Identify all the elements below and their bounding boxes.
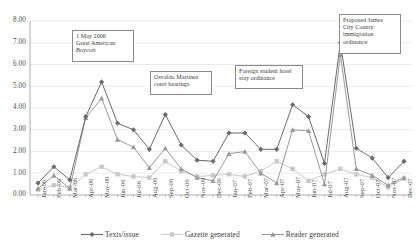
legend-label: Gazette generated [185,230,240,239]
x-axis-tick-label: May-07 [295,177,302,198]
data-point [354,146,359,151]
x-axis-tick-label: Jul-06 [136,181,143,198]
legend-item[interactable]: Reader generated [262,230,339,239]
legend-marker-diamond-icon [81,230,103,239]
y-axis-tick-label: 7.00 [0,39,26,46]
data-point [89,232,94,237]
annotation-line-4: ordinance [343,39,397,46]
x-axis-tick-label: Mar-06 [72,178,79,198]
y-axis-tick-label: 3.00 [0,126,26,133]
y-axis-tick-label: 8.00 [0,17,26,24]
data-point [227,172,231,176]
x-axis-tick-label: Aug-07 [343,177,350,198]
chart-legend: Texts/issueGazette generatedReader gener… [0,230,420,239]
data-point [163,112,168,117]
data-point [354,172,358,176]
legend-marker-square-icon [161,230,183,239]
data-point [290,167,294,171]
annotation-line-1: 1 May 2006 [76,33,130,40]
annotation-osvaldo-martinez: Osvaldo Martinez court hearings [150,71,212,95]
series-reader-generated [35,52,406,191]
data-point [338,167,342,171]
legend-item[interactable]: Gazette generated [161,230,240,239]
data-point [99,79,104,84]
x-axis-tick-label: Sep-06 [168,179,175,198]
data-point [115,137,120,142]
data-point [226,130,231,135]
data-point [170,232,174,236]
annotation-line-3: Boycott [76,47,130,54]
x-axis-tick-label: May-06 [104,177,111,198]
x-axis-tick-label: Apr-07 [279,178,286,198]
x-axis-tick-label: Jan-06 [41,180,48,198]
annotation-line-3: immigration [343,31,397,38]
x-axis-tick-label: Dec-07 [407,178,414,198]
annotation-line-1: Osvaldo Martinez [154,74,208,81]
x-axis-tick-label: Aug-06 [152,177,159,198]
legend-marker-triangle-icon [262,230,284,239]
x-axis-tick-label: Sep-07 [359,179,366,198]
x-axis-tick-label: Jun-07 [311,179,318,198]
annotation-line-2: Great American [76,40,130,47]
annotation-line-2: stay ordinance [239,75,299,82]
x-axis-tick-label: Oct-07 [375,179,382,198]
annotation-line-1: Foreign student hotel [239,68,299,75]
x-axis-tick-label: Nov-07 [391,177,398,198]
annotation-foreign-student-hotel: Foreign student hotel stay ordinance [235,65,303,89]
x-axis-tick-label: Jan-07 [232,180,239,198]
data-point [99,165,103,169]
data-point [115,172,119,176]
x-axis-tick-label: Feb-06 [56,179,63,198]
data-point [163,146,168,151]
data-point [115,121,120,126]
x-axis-tick-label: Apr-06 [88,178,95,198]
y-axis-tick-label: 1.00 [0,170,26,177]
y-axis-tick-label: 0.00 [0,191,26,198]
chart-container: 8.007.006.005.004.003.002.001.000.00 Jan… [0,0,420,248]
y-axis-tick-label: 2.00 [0,148,26,155]
legend-label: Texts/issue [105,230,139,239]
data-point [274,147,279,152]
y-axis-tick-label: 4.00 [0,104,26,111]
annotation-great-american-boycott: 1 May 2006 Great American Boycott [72,30,134,62]
x-axis-tick-label: Jun-06 [120,179,127,198]
y-axis-tick-label: 6.00 [0,61,26,68]
data-point [211,173,215,177]
data-point [163,159,167,163]
x-axis-tick-label: Nov-06 [200,177,207,198]
x-axis-tick-label: Oct-06 [184,179,191,198]
y-axis-tick-label: 5.00 [0,83,26,90]
annotation-jcc-immigration-ordinance: Proposed James City County immigration o… [339,14,401,54]
x-axis-tick-label: Feb-07 [247,179,254,198]
data-point [210,159,215,164]
annotation-line-2: court hearings [154,81,208,88]
data-point [131,174,135,178]
data-point [99,96,104,101]
legend-item[interactable]: Texts/issue [81,230,139,239]
annotation-line-1: Proposed James [343,17,397,24]
data-point [275,159,279,163]
legend-label: Reader generated [286,230,339,239]
annotation-line-2: City County [343,24,397,31]
data-point [84,172,88,176]
x-axis-tick-label: Jul-07 [327,181,334,198]
x-axis-tick-label: Dec-06 [216,178,223,198]
data-point [131,145,136,150]
data-point [354,166,359,171]
x-axis-tick-label: Mar-07 [263,178,270,198]
